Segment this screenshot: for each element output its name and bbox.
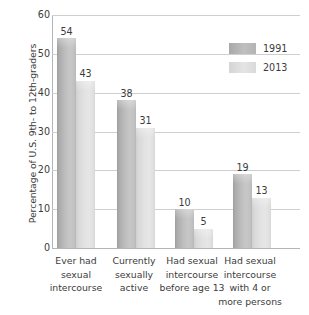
y-tick-0: 0	[28, 243, 50, 253]
y-tick-50: 50	[28, 49, 50, 59]
bar-1991-1[interactable]: 54	[57, 38, 76, 248]
bar-highlight	[136, 128, 155, 138]
bar-value-label: 31	[139, 116, 151, 126]
bar-value-label: 38	[120, 89, 132, 99]
bar-highlight	[76, 81, 95, 91]
axis-baseline	[52, 248, 300, 249]
bar-highlight	[117, 100, 136, 110]
legend-swatch-2013	[229, 62, 256, 73]
bar-highlight	[252, 198, 271, 208]
bar-group: 3831	[117, 15, 155, 248]
bar-2013-4[interactable]: 13	[252, 198, 271, 248]
bar-1991-2[interactable]: 38	[117, 100, 136, 248]
x-label-line: with 4 or	[213, 281, 287, 295]
bar-highlight	[233, 174, 252, 184]
bar-group: 5443	[57, 15, 95, 248]
y-tick-30: 30	[28, 127, 50, 137]
bar-2013-1[interactable]: 43	[76, 81, 95, 248]
bar-value-label: 54	[60, 27, 72, 37]
bar-value-label: 5	[200, 217, 206, 227]
x-label-line: intercourse	[213, 268, 287, 282]
x-label-line: Had sexual	[213, 254, 287, 268]
bar-group: 105	[175, 15, 213, 248]
legend-label: 2013	[263, 63, 287, 73]
bar-highlight	[57, 38, 76, 48]
bar-value-label: 43	[79, 69, 91, 79]
x-label-line: more persons	[213, 295, 287, 309]
bar-value-label: 19	[236, 163, 248, 173]
y-tick-10: 10	[28, 204, 50, 214]
legend-swatch-1991	[229, 43, 256, 54]
legend: 19912013	[229, 41, 303, 79]
bar-value-label: 13	[255, 186, 267, 196]
bar-1991-4[interactable]: 19	[233, 174, 252, 248]
bar-1991-3[interactable]: 10	[175, 209, 194, 248]
bar-value-label: 10	[178, 198, 190, 208]
bar-highlight	[175, 209, 194, 219]
y-tick-20: 20	[28, 165, 50, 175]
bar-chart: Percentage of U.S. 9th- to 12th-graders …	[0, 0, 309, 315]
legend-item-1991[interactable]: 1991	[229, 41, 303, 56]
y-tick-60: 60	[28, 10, 50, 20]
x-axis-category-labels: Ever hadsexualintercourseCurrentlysexual…	[52, 254, 304, 314]
y-tick-40: 40	[28, 88, 50, 98]
bar-2013-3[interactable]: 5	[194, 229, 213, 248]
x-category-label-4: Had sexualintercoursewith 4 ormore perso…	[213, 254, 287, 308]
bar-2013-2[interactable]: 31	[136, 128, 155, 248]
legend-item-2013[interactable]: 2013	[229, 60, 303, 75]
legend-label: 1991	[263, 44, 287, 54]
bar-highlight	[194, 229, 213, 239]
